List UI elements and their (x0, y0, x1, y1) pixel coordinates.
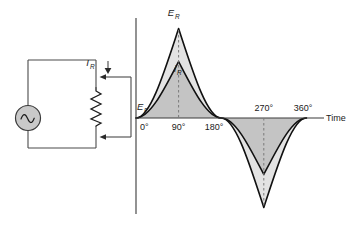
voltage-arrow-head-bottom-icon (100, 134, 107, 139)
x-tick-label-270: 270° (254, 103, 273, 113)
circuit-current-label: I (86, 57, 89, 68)
figure-root: I R E R E R i (0, 0, 354, 228)
x-tick-label-180: 180° (205, 122, 224, 132)
x-axis-title: Time (326, 113, 346, 123)
plot-current-sublabel: R (177, 69, 182, 76)
x-tick-label-90: 90° (172, 122, 186, 132)
waveform-circuit-figure: I R E R E R i (0, 0, 354, 228)
waveform-plot: E R i R 0° 90° 180° 270° 360° Time (136, 7, 346, 214)
resistor-symbol (91, 88, 101, 126)
ac-source-symbol (16, 106, 41, 131)
circuit-current-sublabel: R (90, 63, 95, 70)
circuit-voltage-label: E (137, 101, 144, 112)
plot-voltage-label: E (168, 7, 175, 18)
voltage-arrow-head-top-icon (100, 74, 107, 79)
current-arrow-head-icon (105, 68, 112, 74)
x-tick-label-360: 360° (294, 103, 313, 113)
circuit-diagram: I R E R (16, 57, 150, 148)
x-tick-label-0: 0° (140, 122, 149, 132)
plot-voltage-sublabel: R (175, 13, 180, 20)
